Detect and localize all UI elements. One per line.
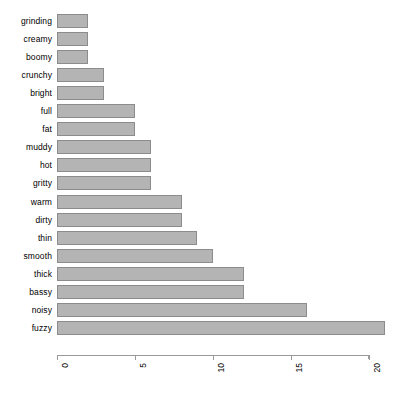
bar-category-label: grinding xyxy=(21,17,52,26)
bar-row: thick xyxy=(0,267,410,281)
bar xyxy=(57,176,151,190)
bar-row: fat xyxy=(0,122,410,136)
bar xyxy=(57,68,104,82)
x-axis-tick-label: 10 xyxy=(217,363,226,372)
bar xyxy=(57,140,151,154)
bar xyxy=(57,14,88,28)
bar-category-label: fuzzy xyxy=(32,323,52,332)
bar xyxy=(57,213,182,227)
bar-row: dirty xyxy=(0,213,410,227)
bar-row: creamy xyxy=(0,32,410,46)
bar-category-label: bassy xyxy=(29,287,52,296)
bar-category-label: muddy xyxy=(26,143,52,152)
bar xyxy=(57,50,88,64)
x-axis-tick xyxy=(135,355,136,360)
x-axis-tick xyxy=(213,355,214,360)
bar-category-label: dirty xyxy=(35,215,52,224)
bar-row: fuzzy xyxy=(0,321,410,335)
x-axis-tick-label: 15 xyxy=(295,363,304,372)
bar xyxy=(57,32,88,46)
bar-row: boomy xyxy=(0,50,410,64)
x-axis-tick xyxy=(57,355,58,360)
x-axis-tick xyxy=(291,355,292,360)
bar-row: full xyxy=(0,104,410,118)
x-axis-tick-label: 20 xyxy=(373,363,382,372)
bar-row: grinding xyxy=(0,14,410,28)
bar-row: bright xyxy=(0,86,410,100)
bar xyxy=(57,104,135,118)
bar-row: muddy xyxy=(0,140,410,154)
x-axis-tick-label: 5 xyxy=(139,363,148,368)
bar xyxy=(57,285,244,299)
plot-area: grindingcreamyboomycrunchybrightfullfatm… xyxy=(0,0,410,360)
bar xyxy=(57,321,385,335)
bar-row: crunchy xyxy=(0,68,410,82)
bar-category-label: bright xyxy=(30,89,52,98)
bar-category-label: hot xyxy=(40,161,52,170)
bar xyxy=(57,86,104,100)
bar-row: warm xyxy=(0,195,410,209)
bar-row: smooth xyxy=(0,249,410,263)
bar-category-label: thick xyxy=(34,269,52,278)
bar xyxy=(57,267,244,281)
bar xyxy=(57,195,182,209)
bar-category-label: crunchy xyxy=(22,71,52,80)
bar xyxy=(57,303,307,317)
bar-category-label: smooth xyxy=(24,251,52,260)
bar-row: hot xyxy=(0,158,410,172)
bar-category-label: thin xyxy=(38,233,52,242)
bar-chart: grindingcreamyboomycrunchybrightfullfatm… xyxy=(0,0,410,394)
bar xyxy=(57,249,213,263)
x-axis-tick xyxy=(369,355,370,360)
bar-category-label: boomy xyxy=(26,53,52,62)
bar-row: bassy xyxy=(0,285,410,299)
bar xyxy=(57,158,151,172)
bar xyxy=(57,231,197,245)
bar-row: noisy xyxy=(0,303,410,317)
bar xyxy=(57,122,135,136)
bar-category-label: noisy xyxy=(32,305,52,314)
bar-row: thin xyxy=(0,231,410,245)
bar-row: gritty xyxy=(0,176,410,190)
bar-category-label: gritty xyxy=(33,179,52,188)
x-axis-tick-label: 0 xyxy=(61,363,70,368)
bar-category-label: fat xyxy=(42,125,52,134)
caption-fragment xyxy=(2,386,408,394)
bar-category-label: creamy xyxy=(24,35,52,44)
bar-category-label: warm xyxy=(31,197,52,206)
bar-category-label: full xyxy=(41,107,52,116)
